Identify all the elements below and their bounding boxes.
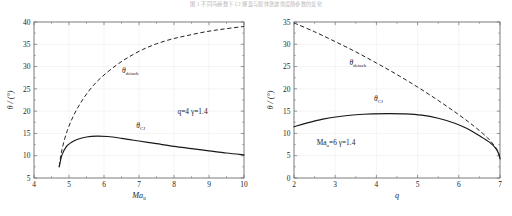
y-tick-label: 5 <box>27 174 31 183</box>
chart-panel-left: 45678910510152025303540Mauθ / (°)θdetach… <box>0 8 256 208</box>
series-theta_CJ <box>294 114 500 159</box>
y-tick-label: 40 <box>23 18 31 27</box>
x-tick-label: 7 <box>498 180 502 189</box>
x-axis-label: q <box>395 191 399 200</box>
gridlines <box>294 22 500 178</box>
y-tick-label: 35 <box>23 40 31 49</box>
x-tick-label: 4 <box>32 180 36 189</box>
chart-left-svg: 45678910510152025303540Mauθ / (°)θdetach… <box>0 8 256 208</box>
x-tick-label: 9 <box>207 180 211 189</box>
y-tick-label: 15 <box>23 129 31 138</box>
annotation-parameters: q=4 γ=1.4 <box>178 107 208 116</box>
axis-frame <box>294 22 500 178</box>
x-tick-label: 3 <box>333 180 337 189</box>
tick-labels: 45678910510152025303540 <box>23 18 248 189</box>
chart-panel-right: 23456705101520253035qθ / (°)θdetachθCJMa… <box>256 8 512 208</box>
x-tick-label: 6 <box>457 180 461 189</box>
x-tick-label: 2 <box>292 180 296 189</box>
x-tick-label: 8 <box>172 180 176 189</box>
annotation-parameters: Mau=6 γ=1.4 <box>317 138 356 148</box>
y-tick-label: 20 <box>283 85 291 94</box>
annotation-theta-cj-label: θCJ <box>374 94 383 104</box>
y-tick-label: 10 <box>23 151 31 160</box>
series-theta_CJ <box>59 136 244 167</box>
x-tick-label: 5 <box>416 180 420 189</box>
y-axis-label: θ / (°) <box>266 90 275 109</box>
y-tick-label: 0 <box>287 174 291 183</box>
x-tick-label: 7 <box>137 180 141 189</box>
data-curves <box>59 26 244 166</box>
y-tick-label: 30 <box>23 62 31 71</box>
annotation-theta-detach-label: θdetach <box>122 66 139 76</box>
annotation-theta-cj-label: θCJ <box>136 121 145 131</box>
gridlines <box>34 22 244 178</box>
y-tick-label: 30 <box>283 40 291 49</box>
chart-right-svg: 23456705101520253035qθ / (°)θdetachθCJMa… <box>256 8 512 208</box>
y-tick-label: 25 <box>283 62 291 71</box>
annotations: θdetachθCJq=4 γ=1.4 <box>122 66 208 131</box>
tick-labels: 23456705101520253035 <box>283 18 502 189</box>
annotations: θdetachθCJMau=6 γ=1.4 <box>317 58 383 148</box>
y-tick-label: 5 <box>287 151 291 160</box>
axis-ticks <box>294 22 500 178</box>
x-tick-label: 10 <box>240 180 248 189</box>
y-tick-label: 15 <box>283 107 291 116</box>
figure-page: 图 1 不同马赫数下 CJ 爆轰与脱体激波角度随参数的变化 4567891051… <box>0 0 512 216</box>
series-theta_detach <box>59 26 244 166</box>
y-axis-label: θ / (°) <box>6 90 15 109</box>
y-tick-label: 10 <box>283 129 291 138</box>
x-tick-label: 5 <box>67 180 71 189</box>
y-tick-label: 25 <box>23 85 31 94</box>
x-tick-label: 4 <box>375 180 379 189</box>
x-axis-label: Mau <box>131 191 146 201</box>
y-tick-label: 20 <box>23 107 31 116</box>
y-tick-label: 35 <box>283 18 291 27</box>
x-tick-label: 6 <box>102 180 106 189</box>
annotation-theta-detach-label: θdetach <box>350 58 367 68</box>
